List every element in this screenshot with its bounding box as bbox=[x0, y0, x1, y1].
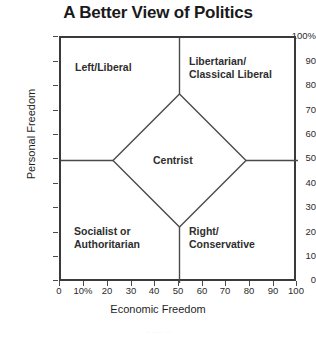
x-tick-mark-0 bbox=[59, 281, 60, 286]
y-tick-mark-40 bbox=[53, 183, 58, 184]
y-tick-mark-70 bbox=[53, 110, 58, 111]
region-label-line1: Libertarian/ bbox=[189, 55, 246, 67]
y-tick-mark-10 bbox=[53, 256, 58, 257]
region-label-left-liberal: Left/Liberal bbox=[75, 61, 132, 74]
chart-title: A Better View of Politics bbox=[0, 3, 316, 23]
region-label-line2: Classical Liberal bbox=[189, 68, 272, 80]
region-label-line2: Conservative bbox=[189, 238, 255, 250]
region-label-libertarian-classical-liberal: Libertarian/Classical Liberal bbox=[189, 55, 272, 80]
y-axis-title: Personal Freedom bbox=[25, 59, 37, 209]
region-label-line1: Right/ bbox=[189, 225, 219, 237]
y-tick-mark-0 bbox=[53, 280, 58, 281]
x-axis-title: Economic Freedom bbox=[0, 303, 316, 315]
x-tick-label-100: 100 bbox=[276, 286, 316, 296]
region-label-right-conservative: Right/Conservative bbox=[189, 225, 255, 250]
y-tick-mark-50 bbox=[53, 158, 58, 159]
y-tick-mark-60 bbox=[53, 134, 58, 135]
y-tick-mark-80 bbox=[53, 85, 58, 86]
y-tick-mark-90 bbox=[53, 61, 58, 62]
y-tick-mark-30 bbox=[53, 207, 58, 208]
region-label-line2: Authoritarian bbox=[74, 238, 140, 250]
region-label-line1: Socialist or bbox=[74, 225, 131, 237]
y-tick-mark-20 bbox=[53, 232, 58, 233]
y-tick-mark-100 bbox=[53, 36, 58, 37]
plot-area: Left/Liberal Libertarian/Classical Liber… bbox=[59, 36, 296, 281]
clipped-caption: ·· ···· ·· bbox=[0, 328, 316, 335]
region-label-socialist-authoritarian: Socialist orAuthoritarian bbox=[74, 225, 140, 250]
region-label-centrist: Centrist bbox=[153, 154, 193, 167]
